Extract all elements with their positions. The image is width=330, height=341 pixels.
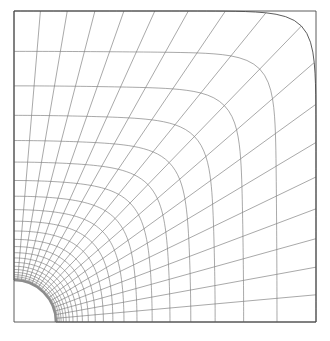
- mesh-figure: [0, 0, 330, 341]
- mesh-canvas: [0, 0, 330, 341]
